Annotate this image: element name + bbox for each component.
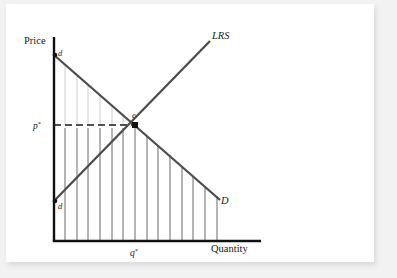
supply-lower-endpoint-dot <box>53 199 58 204</box>
x-axis-label: Quantity <box>211 243 248 254</box>
lrs-curve-label: LRS <box>211 30 230 41</box>
screenshot-root: Price Quantity LRS D d d e p* q* <box>0 0 397 278</box>
demand-upper-endpoint-dot <box>53 53 58 58</box>
figure-card: Price Quantity LRS D d d e p* q* <box>6 4 374 262</box>
equilibrium-point-label: e <box>132 110 136 120</box>
supply-lower-endpoint-label: d <box>58 201 63 211</box>
equilibrium-price-star: * <box>38 120 41 127</box>
equilibrium-quantity-tick-label: q* <box>130 247 138 259</box>
y-axis-label: Price <box>24 35 46 46</box>
hatch-lines-left-dark <box>65 128 135 241</box>
equilibrium-point-marker <box>132 122 138 128</box>
equilibrium-quantity-star: * <box>135 247 138 254</box>
demand-curve-label: D <box>220 195 229 206</box>
equilibrium-price-tick-label: p* <box>32 120 41 132</box>
demand-upper-endpoint-label: d <box>58 48 63 58</box>
supply-demand-chart: Price Quantity LRS D d d e p* q* <box>6 4 374 262</box>
